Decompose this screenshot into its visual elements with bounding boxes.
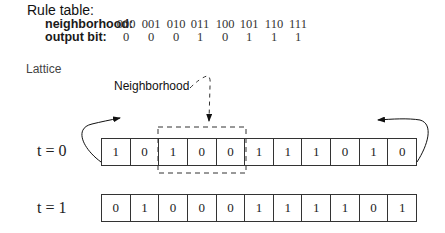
lattice-cell: 0 [188,139,217,165]
lattice-cell: 1 [245,139,274,165]
lattice-cell: 0 [388,139,416,165]
output-value: 0 [164,30,188,45]
neighborhood-pointer-arrow [190,76,210,121]
output-value: 1 [237,30,261,45]
row-label-t1: t = 1 [37,199,66,217]
lattice-cell: 1 [360,139,389,165]
output-value: 0 [213,30,237,45]
lattice-cell: 0 [331,139,360,165]
lattice-cell: 1 [102,139,131,165]
lattice-cell: 1 [274,139,303,165]
neighborhood-annotation: Neighborhood [114,79,189,93]
lattice-cell: 0 [131,139,160,165]
lattice-cell: 0 [188,195,217,221]
output-value: 0 [114,30,138,45]
rule-table-title: Rule table: [27,2,94,18]
lattice-cell: 1 [302,139,331,165]
lattice-cell: 1 [388,195,416,221]
output-value: 0 [139,30,163,45]
lattice-cell: 1 [245,195,274,221]
output-value: 1 [188,30,212,45]
lattice-cell: 0 [102,195,131,221]
lattice-row-t1: 0 1 0 0 0 1 1 1 1 0 1 [101,194,417,222]
output-row-label: output bit: [45,30,107,44]
output-value: 1 [286,30,310,45]
lattice-cell: 0 [360,195,389,221]
row-label-t0: t = 0 [37,142,66,160]
lattice-label: Lattice [26,62,61,76]
lattice-cell: 0 [217,139,246,165]
lattice-cell: 0 [159,195,188,221]
lattice-cell: 1 [302,195,331,221]
lattice-cell: 1 [274,195,303,221]
lattice-cell: 0 [217,195,246,221]
lattice-row-t0: 1 0 1 0 0 1 1 1 0 1 0 [101,138,417,166]
lattice-cell: 1 [131,195,160,221]
lattice-cell: 1 [331,195,360,221]
output-value: 1 [262,30,286,45]
lattice-cell: 1 [159,139,188,165]
